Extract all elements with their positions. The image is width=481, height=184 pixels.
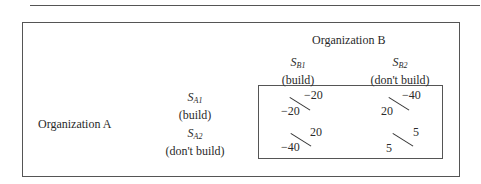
org-b-title: Organization B [312,33,385,47]
payoff-a: −40 [281,140,300,155]
payoff-b: −20 [304,88,323,103]
top-rule [30,5,480,6]
payoff-b: −40 [402,88,421,103]
col-header-sb2: SB2 (don't build) [360,55,440,87]
payoff-b: 20 [310,125,322,140]
org-a-title: Organization A [38,117,111,131]
row-header-sa1: SA1 (build) [160,90,230,122]
col-header-sb1: SB1 (build) [268,55,328,87]
payoff-a: −20 [281,104,300,119]
payoff-a: 5 [386,141,392,156]
payoff-b: 5 [413,125,419,140]
payoff-a: 20 [381,104,393,119]
row-header-sa2: SA2 (don't build) [155,126,235,158]
